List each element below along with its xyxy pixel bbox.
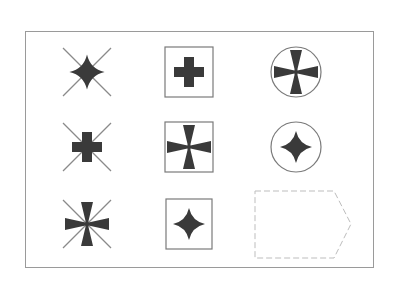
answer-placeholder-icon: [255, 191, 351, 258]
four-point-star-icon: [173, 208, 205, 240]
cell-r2c2: [165, 122, 213, 172]
puzzle-matrix: [0, 0, 393, 290]
plus-cross-icon: [174, 57, 204, 87]
cell-r1c2: [165, 47, 213, 97]
cell-r1c3: [271, 47, 321, 97]
pattee-cross-icon: [167, 125, 211, 169]
cell-r2c1: [63, 123, 111, 171]
cell-r3c3-answer[interactable]: [255, 191, 351, 258]
cell-r1c1: [63, 48, 111, 96]
cell-r3c1: [63, 200, 111, 248]
cell-r3c2: [166, 199, 212, 249]
four-point-star-icon: [280, 131, 312, 163]
pattee-cross-icon: [274, 50, 318, 94]
cell-r2c3: [271, 122, 321, 172]
